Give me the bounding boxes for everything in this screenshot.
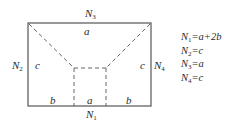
equation-n2: N2=c (181, 44, 221, 58)
label-n4: N4 (154, 59, 165, 71)
eq4-rhs: =c (192, 72, 204, 83)
left-edge-label-c: c (35, 59, 40, 71)
eq2-letter: N (181, 45, 188, 56)
equation-n4: N4=c (181, 71, 221, 85)
equations-legend: N1=a+2b N2=c N3=a N4=c (181, 30, 221, 84)
bottom-left-label-b: b (50, 94, 56, 106)
n2-sub: 2 (19, 65, 23, 73)
equation-n1: N1=a+2b (181, 30, 221, 44)
label-n2: N2 (12, 59, 23, 71)
eq4-letter: N (181, 72, 188, 83)
n4-sub: 4 (161, 65, 165, 73)
eq1-rhs: =a+2b (192, 31, 222, 42)
n3-sub: 3 (92, 13, 96, 21)
label-n1: N1 (86, 108, 97, 120)
eq1-letter: N (181, 31, 188, 42)
right-edge-label-c: c (140, 59, 145, 71)
eq3-letter: N (181, 58, 188, 69)
eq2-rhs: =c (192, 45, 204, 56)
equation-n3: N3=a (181, 57, 221, 71)
label-n3: N3 (85, 7, 96, 19)
bottom-mid-label-a: a (87, 94, 93, 106)
eq3-rhs: =a (192, 58, 204, 69)
n1-sub: 1 (93, 114, 97, 122)
bottom-right-label-b: b (126, 94, 132, 106)
top-edge-label-a: a (84, 25, 90, 37)
